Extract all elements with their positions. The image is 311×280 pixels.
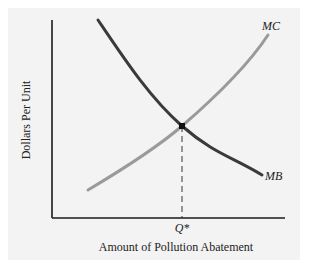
equilibrium-point: [179, 123, 185, 129]
mb-curve: [98, 20, 262, 175]
chart: MC MB Q* Amount of Pollution Abatement D…: [0, 0, 311, 280]
qstar-tick-label: Q*: [175, 221, 190, 235]
mc-curve: [88, 35, 268, 190]
x-axis-title: Amount of Pollution Abatement: [99, 240, 254, 254]
mc-label: MC: [261, 19, 281, 33]
y-axis-title: Dollars Per Unit: [19, 80, 33, 159]
mb-label: MB: [264, 169, 283, 183]
